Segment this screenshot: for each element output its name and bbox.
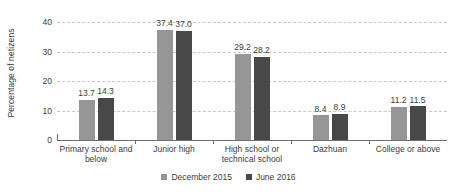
x-tick-label: Dazhuan: [291, 144, 369, 154]
bar-chart: Percentage of netizens 010203040 13.714.…: [0, 0, 457, 192]
bar[interactable]: [332, 114, 348, 140]
bar-column: 11.2: [391, 22, 407, 140]
legend-swatch-icon: [246, 174, 252, 180]
bar-column: 37.0: [176, 22, 192, 140]
y-axis-title: Percentage of netizens: [0, 0, 22, 145]
legend-item[interactable]: June 2016: [246, 172, 296, 182]
bar-group: 29.228.2: [213, 22, 291, 140]
y-tick-label: 10: [30, 106, 52, 115]
x-axis-tick: [135, 140, 136, 144]
x-tick-label: College or above: [369, 144, 447, 154]
bar-value-label: 14.3: [97, 87, 114, 96]
x-axis-tick: [291, 140, 292, 144]
bar-column: 13.7: [79, 22, 95, 140]
bar-value-label: 11.5: [410, 96, 426, 105]
bar[interactable]: [235, 54, 251, 140]
bar[interactable]: [391, 107, 407, 140]
x-tick-label: Junior high: [135, 144, 213, 154]
bar-column: 37.4: [157, 22, 173, 140]
bar-column: 8.9: [332, 22, 348, 140]
legend-label: June 2016: [256, 172, 296, 182]
x-axis-category-labels: Primary school andbelowJunior highHigh s…: [57, 144, 447, 168]
legend-swatch-icon: [161, 174, 167, 180]
bar-value-label: 8.4: [315, 105, 327, 114]
bar[interactable]: [254, 57, 270, 140]
bar-group: 8.48.9: [291, 22, 369, 140]
bar-group: 11.211.5: [369, 22, 447, 140]
bar-value-label: 37.0: [175, 20, 192, 29]
bar-column: 11.5: [410, 22, 426, 140]
bar-column: 8.4: [313, 22, 329, 140]
x-tick-label: High school ortechnical school: [213, 144, 291, 164]
x-tick-label: Primary school andbelow: [57, 144, 135, 164]
bar-column: 29.2: [235, 22, 251, 140]
bar[interactable]: [98, 98, 114, 140]
bar[interactable]: [79, 100, 95, 140]
bar[interactable]: [410, 106, 426, 140]
y-axis-line: [57, 134, 58, 141]
bar-value-label: 29.2: [234, 43, 251, 52]
chart-legend: December 2015June 2016: [0, 172, 457, 182]
x-axis-line: [57, 140, 447, 141]
y-tick-label: 0: [30, 136, 52, 145]
bar-column: 14.3: [98, 22, 114, 140]
x-axis-tick: [369, 140, 370, 144]
legend-label: December 2015: [171, 172, 231, 182]
bar-column: 28.2: [254, 22, 270, 140]
bar[interactable]: [313, 115, 329, 140]
bar[interactable]: [176, 31, 192, 140]
y-axis-tick-labels: 010203040: [24, 22, 52, 140]
bar-value-label: 8.9: [334, 103, 346, 112]
legend-item[interactable]: December 2015: [161, 172, 231, 182]
bar-value-label: 11.2: [391, 96, 407, 105]
bar-value-label: 28.2: [253, 46, 270, 55]
plot-area: 13.714.337.437.029.228.28.48.911.211.5: [57, 22, 447, 140]
y-axis-title-text: Percentage of netizens: [6, 28, 16, 117]
x-axis-tick: [213, 140, 214, 144]
y-tick-label: 20: [30, 77, 52, 86]
bar-group: 37.437.0: [135, 22, 213, 140]
y-tick-label: 30: [30, 47, 52, 56]
bar-group: 13.714.3: [57, 22, 135, 140]
bar[interactable]: [157, 30, 173, 140]
bar-value-label: 13.7: [78, 89, 95, 98]
y-tick-label: 40: [30, 18, 52, 27]
bar-value-label: 37.4: [156, 19, 173, 28]
